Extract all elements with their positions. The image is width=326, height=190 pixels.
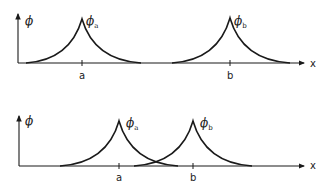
site-label-b: b — [227, 70, 233, 81]
site-label-b: b — [190, 172, 196, 183]
y-axis-label: ϕ — [25, 14, 33, 28]
wavefunction-diagram: ϕ x a ϕa b ϕb ϕ x a ϕa b ϕb — [0, 0, 326, 190]
panel-separated: ϕ x a ϕa b ϕb — [18, 14, 316, 81]
y-axis-label: ϕ — [25, 114, 33, 128]
x-axis-label: x — [310, 160, 316, 171]
curve-phi-a — [60, 121, 178, 166]
curve-label-phi-a: ϕa — [86, 14, 98, 30]
curve-phi-b — [172, 18, 290, 63]
curve-label-phi-b: ϕb — [200, 116, 213, 132]
curve-phi-b — [134, 121, 252, 166]
curve-phi-a — [26, 19, 141, 63]
site-label-a: a — [116, 172, 122, 183]
curve-label-phi-b: ϕb — [234, 14, 247, 30]
site-label-a: a — [79, 70, 85, 81]
panel-overlapping: ϕ x a ϕa b ϕb — [19, 114, 316, 183]
curve-label-phi-a: ϕa — [126, 116, 138, 132]
x-axis-label: x — [310, 58, 316, 69]
